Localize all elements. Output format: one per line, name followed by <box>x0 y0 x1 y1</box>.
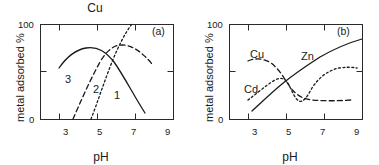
panel-a-x-ticks <box>60 25 136 120</box>
panel-a-curve-2 <box>73 45 152 119</box>
panel-a-curve-3 <box>59 48 145 113</box>
panel-b-curve-cu <box>248 59 351 101</box>
panel-b-curve-cd <box>248 67 357 101</box>
panel-b-plot <box>189 0 379 165</box>
panel-b: metal adsorbed % 100 0 3 5 7 9 pH (b) Cu… <box>189 0 379 165</box>
panel-a-curve-1 <box>91 24 132 119</box>
panel-a-frame <box>41 25 174 120</box>
figure-container: Cu metal adsorbed % 100 0 3 5 7 9 pH (a)… <box>0 0 379 165</box>
panel-a: Cu metal adsorbed % 100 0 3 5 7 9 pH (a)… <box>0 0 190 165</box>
panel-b-x-ticks <box>249 25 325 120</box>
panel-b-frame <box>230 25 363 120</box>
panel-a-plot <box>0 0 190 165</box>
